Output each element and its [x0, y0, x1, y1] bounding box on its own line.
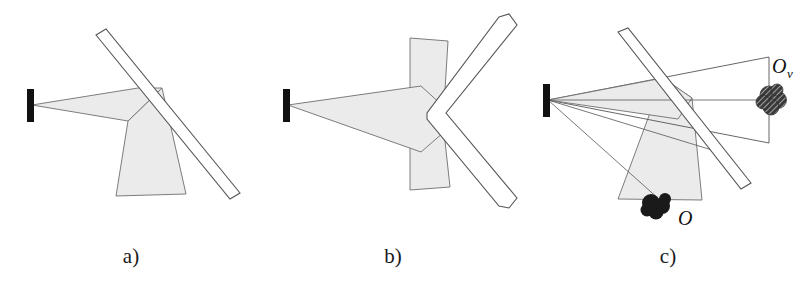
- panel-c-virtual-object-label: O: [772, 55, 786, 77]
- panel-b-detector: [283, 89, 290, 122]
- panel-c-object-label: O: [678, 207, 692, 229]
- panel-a-caption: a): [123, 244, 139, 268]
- figure-root: a) b): [0, 0, 809, 286]
- panel-c-detector: [543, 84, 550, 117]
- panel-c-caption: c): [660, 244, 676, 268]
- panel-b-caption: b): [384, 244, 402, 268]
- panel-a-detector: [27, 89, 34, 122]
- panel-c-virtual-object-label-subscript: v: [787, 66, 793, 81]
